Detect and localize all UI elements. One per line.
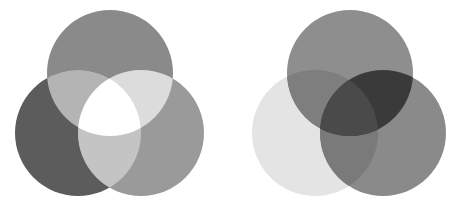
subtractive-diagram <box>252 10 446 196</box>
additive-diagram <box>15 10 204 196</box>
color-mixing-diagrams <box>0 0 455 211</box>
